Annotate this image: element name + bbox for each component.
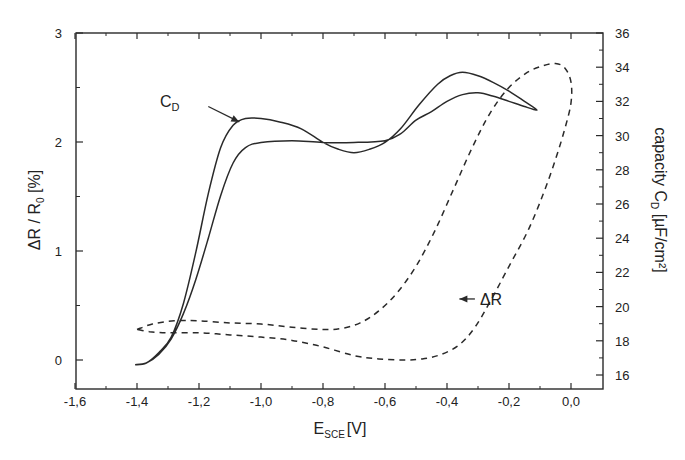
- chart-figure: -1,6-1,4-1,2-1,0-0,8-0,6-0,4-0,20,0 0123…: [0, 0, 685, 460]
- arrowhead-delta-r: [459, 295, 467, 302]
- left-y-axis-title-unit: [%]: [26, 170, 43, 198]
- right-tick-label: 34: [615, 60, 629, 75]
- x-axis-title-sub: SCE: [324, 429, 345, 440]
- x-axis-title: ESCE[V]: [314, 420, 367, 440]
- right-y-axis-title-main: capacity C: [652, 127, 669, 202]
- x-tick-label: -1,2: [188, 394, 210, 409]
- left-tick-label: 0: [55, 353, 62, 368]
- x-tick-label: -0,8: [312, 394, 334, 409]
- x-tick-label: -1,6: [64, 394, 86, 409]
- left-tick-label: 1: [55, 244, 62, 259]
- x-axis-title-unit: [V]: [347, 420, 367, 437]
- x-tick-label: -0,4: [436, 394, 458, 409]
- right-y-axis-ticks: 1618202224262830323436: [596, 26, 629, 383]
- x-tick-label: -1,4: [126, 394, 148, 409]
- right-tick-label: 18: [615, 334, 629, 349]
- data-series: [135, 63, 572, 364]
- right-tick-label: 32: [615, 94, 629, 109]
- x-tick-label: -1,0: [250, 394, 272, 409]
- left-y-axis-title-main: ΔR / R: [26, 203, 43, 250]
- right-tick-label: 30: [615, 129, 629, 144]
- right-y-axis-title-unit: [µF/cm²]: [652, 209, 669, 272]
- left-tick-label: 3: [55, 26, 62, 41]
- x-axis-title-main: E: [314, 420, 325, 437]
- label-cd-main: C: [160, 93, 172, 110]
- annotations: CDΔR: [160, 93, 502, 308]
- right-tick-label: 26: [615, 197, 629, 212]
- right-y-axis-title: capacity CD [µF/cm²]: [649, 127, 669, 272]
- right-tick-label: 22: [615, 265, 629, 280]
- x-tick-label: -0,2: [498, 394, 520, 409]
- x-tick-label: -0,6: [374, 394, 396, 409]
- left-y-axis-title: ΔR / R0 [%]: [26, 170, 46, 250]
- label-cd: CD: [160, 93, 180, 113]
- label-cd-sub: D: [172, 101, 180, 113]
- axes-frame: [76, 33, 603, 389]
- left-tick-label: 2: [55, 135, 62, 150]
- plot-frame: [76, 33, 603, 389]
- left-y-axis-ticks: 0123: [55, 26, 83, 368]
- right-tick-label: 36: [615, 26, 629, 41]
- right-tick-label: 28: [615, 163, 629, 178]
- x-tick-label: 0,0: [562, 394, 580, 409]
- series-delta-r: [137, 63, 572, 360]
- right-tick-label: 16: [615, 368, 629, 383]
- label-delta-r: ΔR: [480, 291, 502, 308]
- x-axis-ticks: -1,6-1,4-1,2-1,0-0,8-0,6-0,4-0,20,0: [64, 33, 580, 409]
- right-tick-label: 24: [615, 231, 629, 246]
- right-y-axis-title-sub: D: [649, 202, 660, 209]
- right-tick-label: 20: [615, 300, 629, 315]
